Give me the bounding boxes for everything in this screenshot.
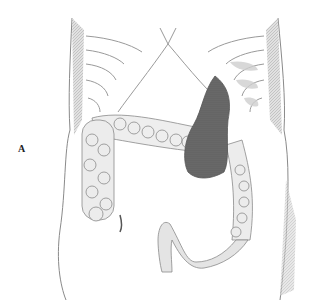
abdomen-drawing bbox=[0, 0, 313, 303]
anatomical-illustration: A bbox=[0, 0, 313, 303]
ribcage bbox=[86, 28, 264, 112]
descending-colon bbox=[226, 140, 252, 240]
left-flank-shade bbox=[72, 18, 84, 135]
right-rib-shading bbox=[230, 61, 258, 106]
figure-label: A bbox=[18, 143, 25, 154]
right-hip-shade bbox=[280, 180, 296, 296]
